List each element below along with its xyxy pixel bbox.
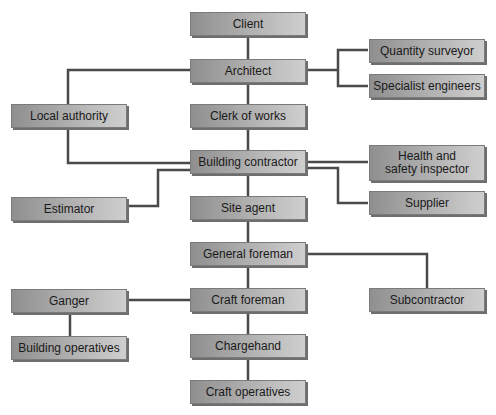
node-label: Supplier — [405, 197, 449, 210]
node-label: Estimator — [44, 203, 95, 216]
node-label: Clerk of works — [210, 110, 286, 123]
node-supplier: Supplier — [369, 191, 485, 215]
node-architect: Architect — [190, 59, 306, 83]
node-ganger: Ganger — [11, 289, 127, 313]
node-craft-foreman: Craft foreman — [190, 288, 306, 312]
node-label: Ganger — [49, 295, 89, 308]
node-chargehand: Chargehand — [190, 334, 306, 358]
node-label: Chargehand — [215, 340, 281, 353]
node-building-contractor: Building contractor — [190, 150, 306, 174]
node-general-foreman: General foreman — [190, 242, 306, 266]
node-client: Client — [190, 12, 306, 36]
node-clerk-of-works: Clerk of works — [190, 104, 306, 128]
node-estimator: Estimator — [11, 197, 127, 221]
node-label: Architect — [225, 65, 272, 78]
node-craft-operatives: Craft operatives — [190, 380, 306, 404]
node-label: Health and safety inspector — [382, 150, 472, 176]
node-building-operatives: Building operatives — [11, 336, 127, 360]
node-label: Client — [233, 18, 264, 31]
node-quantity-surveyor: Quantity surveyor — [369, 39, 485, 63]
node-label: Building operatives — [18, 342, 119, 355]
node-label: Site agent — [221, 202, 275, 215]
node-label: General foreman — [203, 248, 293, 261]
node-local-authority: Local authority — [11, 104, 127, 128]
node-health-safety-inspector: Health and safety inspector — [369, 145, 485, 181]
node-label: Specialist engineers — [373, 80, 480, 93]
node-label: Craft operatives — [206, 386, 291, 399]
node-label: Local authority — [30, 110, 108, 123]
node-specialist-engineers: Specialist engineers — [369, 74, 485, 98]
node-site-agent: Site agent — [190, 196, 306, 220]
node-subcontractor: Subcontractor — [369, 288, 485, 312]
node-label: Building contractor — [198, 156, 297, 169]
node-label: Subcontractor — [390, 294, 465, 307]
node-label: Craft foreman — [211, 294, 284, 307]
node-label: Quantity surveyor — [380, 45, 474, 58]
